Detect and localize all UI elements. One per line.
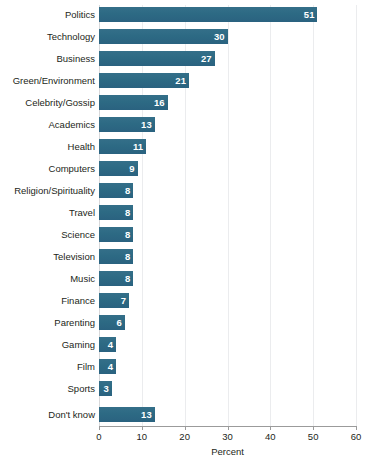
- tick-mark-30: [228, 426, 229, 430]
- category-label: Business: [0, 51, 95, 66]
- bar-value-label: 11: [133, 139, 143, 154]
- bar-value-label: 7: [121, 293, 126, 308]
- bar-track: 3: [99, 381, 356, 396]
- bar-value-label: 51: [304, 7, 315, 22]
- bar-track: 11: [99, 139, 356, 154]
- category-label: Computers: [0, 161, 95, 176]
- category-label: Religion/Spirituality: [0, 183, 95, 198]
- bar: 30: [99, 29, 228, 44]
- bar-row: Don't know13: [0, 407, 375, 422]
- bar-row: Business27: [0, 51, 375, 66]
- bar-track: 16: [99, 95, 356, 110]
- bar: 8: [99, 249, 133, 264]
- bar-value-label: 13: [141, 117, 152, 132]
- bar-row: Computers9: [0, 161, 375, 176]
- category-label: Parenting: [0, 315, 95, 330]
- bar-track: 4: [99, 337, 356, 352]
- tick-label-60: 60: [351, 431, 362, 443]
- bar-value-label: 8: [125, 205, 130, 220]
- bar-row: Politics51: [0, 7, 375, 22]
- bar: 8: [99, 205, 133, 220]
- tick-mark-0: [99, 426, 100, 430]
- tick-mark-50: [313, 426, 314, 430]
- tick-mark-20: [185, 426, 186, 430]
- bar-track: 4: [99, 359, 356, 374]
- bar: 8: [99, 227, 133, 242]
- bar-row: Parenting6: [0, 315, 375, 330]
- category-label: Politics: [0, 7, 95, 22]
- bar: 21: [99, 73, 189, 88]
- bar-value-label: 6: [116, 315, 121, 330]
- category-label: Gaming: [0, 337, 95, 352]
- bar-track: 8: [99, 249, 356, 264]
- bar-value-label: 8: [125, 271, 130, 286]
- bar-row: Academics13: [0, 117, 375, 132]
- bar-value-label: 27: [201, 51, 212, 66]
- x-axis-title: Percent: [99, 446, 356, 458]
- bar-track: 7: [99, 293, 356, 308]
- bar-track: 8: [99, 227, 356, 242]
- bar: 8: [99, 183, 133, 198]
- tick-label-10: 10: [137, 431, 148, 443]
- bar: 9: [99, 161, 138, 176]
- bar-track: 21: [99, 73, 356, 88]
- bar-row: Television8: [0, 249, 375, 264]
- category-label: Health: [0, 139, 95, 154]
- bar-row: Film4: [0, 359, 375, 374]
- x-axis-tick-labels: 0102030405060: [0, 431, 375, 445]
- bar-row: Health11: [0, 139, 375, 154]
- bar-value-label: 4: [108, 337, 113, 352]
- bar-row: Travel8: [0, 205, 375, 220]
- bar: 13: [99, 117, 155, 132]
- category-label: Travel: [0, 205, 95, 220]
- bar-value-label: 9: [129, 161, 134, 176]
- bar: 27: [99, 51, 215, 66]
- category-label: Technology: [0, 29, 95, 44]
- bar-track: 8: [99, 205, 356, 220]
- bar: 7: [99, 293, 129, 308]
- tick-label-40: 40: [265, 431, 276, 443]
- bar-row: Gaming4: [0, 337, 375, 352]
- bar-row: Music8: [0, 271, 375, 286]
- category-label: Science: [0, 227, 95, 242]
- bar-track: 27: [99, 51, 356, 66]
- category-label: Celebrity/Gossip: [0, 95, 95, 110]
- bar-track: 51: [99, 7, 356, 22]
- bar-row: Green/Environment21: [0, 73, 375, 88]
- bar-row: Finance7: [0, 293, 375, 308]
- bar-row: Technology30: [0, 29, 375, 44]
- bar-value-label: 16: [154, 95, 165, 110]
- bar-track: 8: [99, 183, 356, 198]
- bar-row: Religion/Spirituality8: [0, 183, 375, 198]
- tick-label-30: 30: [222, 431, 233, 443]
- bar: 3: [99, 381, 112, 396]
- category-label: Television: [0, 249, 95, 264]
- bar: 6: [99, 315, 125, 330]
- bar-track: 9: [99, 161, 356, 176]
- bar-value-label: 21: [175, 73, 186, 88]
- bar-row: Science8: [0, 227, 375, 242]
- tick-label-50: 50: [308, 431, 319, 443]
- tick-label-20: 20: [179, 431, 190, 443]
- category-label: Music: [0, 271, 95, 286]
- bar-track: 13: [99, 407, 356, 422]
- bar-value-label: 4: [108, 359, 113, 374]
- bar-value-label: 8: [125, 183, 130, 198]
- bar: 16: [99, 95, 168, 110]
- bar-value-label: 8: [125, 249, 130, 264]
- bar-value-label: 8: [125, 227, 130, 242]
- bar-chart: Politics51Technology30Business27Green/En…: [0, 0, 375, 462]
- category-label: Don't know: [0, 407, 95, 422]
- tick-label-0: 0: [96, 431, 101, 443]
- tick-mark-60: [356, 426, 357, 430]
- bar-track: 13: [99, 117, 356, 132]
- bar-value-label: 13: [141, 407, 152, 422]
- category-label: Green/Environment: [0, 73, 95, 88]
- tick-mark-10: [142, 426, 143, 430]
- bar-value-label: 30: [214, 29, 225, 44]
- bar-row: Sports3: [0, 381, 375, 396]
- bar-track: 6: [99, 315, 356, 330]
- bar: 4: [99, 359, 116, 374]
- bar: 8: [99, 271, 133, 286]
- tick-mark-40: [270, 426, 271, 430]
